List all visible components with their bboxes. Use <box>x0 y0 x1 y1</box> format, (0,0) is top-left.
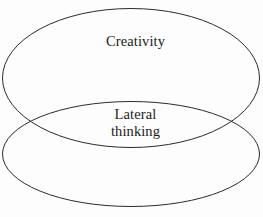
label-lateral-thinking-line-1: Lateral <box>8 106 263 123</box>
label-lateral-thinking: Lateral thinking <box>0 106 263 140</box>
label-lateral-thinking-line-2: thinking <box>8 123 263 140</box>
label-creativity: Creativity <box>0 33 263 50</box>
venn-diagram-canvas: Creativity Lateral thinking <box>0 0 263 217</box>
